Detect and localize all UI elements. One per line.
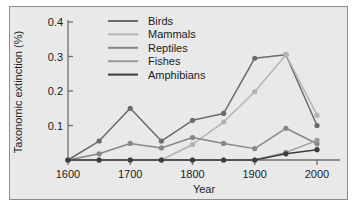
line-chart: 0.10.20.30.4 16001700180019002000 Year T… bbox=[0, 0, 358, 207]
data-point bbox=[97, 138, 102, 143]
data-point bbox=[128, 106, 133, 111]
x-axis-title: Year bbox=[193, 183, 216, 195]
y-axis-ticks bbox=[68, 22, 73, 126]
data-point bbox=[252, 157, 257, 162]
data-point bbox=[221, 157, 226, 162]
data-point bbox=[314, 123, 319, 128]
y-tick-label: 0.4 bbox=[48, 16, 63, 28]
x-tick-label: 1800 bbox=[180, 168, 204, 180]
data-point bbox=[221, 141, 226, 146]
data-point bbox=[314, 147, 319, 152]
legend-label-birds: Birds bbox=[148, 15, 174, 27]
data-point bbox=[190, 118, 195, 123]
legend-label-amphibians: Amphibians bbox=[148, 69, 206, 81]
data-point bbox=[190, 135, 195, 140]
y-axis-tick-labels: 0.10.20.30.4 bbox=[48, 16, 63, 132]
data-point bbox=[190, 142, 195, 147]
x-tick-label: 1700 bbox=[118, 168, 142, 180]
data-point bbox=[159, 157, 164, 162]
legend: BirdsMammalsReptilesFishesAmphibians bbox=[108, 15, 206, 81]
y-axis-title: Taxonomic extinction (%) bbox=[12, 31, 24, 153]
data-point bbox=[221, 111, 226, 116]
data-point bbox=[252, 56, 257, 61]
data-point bbox=[314, 138, 319, 143]
data-point bbox=[65, 157, 70, 162]
y-tick-label: 0.2 bbox=[48, 85, 63, 97]
legend-label-fishes: Fishes bbox=[148, 55, 181, 67]
legend-label-mammals: Mammals bbox=[148, 28, 196, 40]
data-point bbox=[97, 157, 102, 162]
y-tick-label: 0.1 bbox=[48, 120, 63, 132]
x-tick-label: 1900 bbox=[243, 168, 267, 180]
data-point bbox=[252, 89, 257, 94]
x-axis-tick-labels: 16001700180019002000 bbox=[56, 168, 329, 180]
x-tick-label: 1600 bbox=[56, 168, 80, 180]
figure-container: 0.10.20.30.4 16001700180019002000 Year T… bbox=[0, 0, 358, 207]
data-point bbox=[283, 151, 288, 156]
legend-label-reptiles: Reptiles bbox=[148, 42, 188, 54]
data-point bbox=[283, 52, 288, 57]
data-point bbox=[128, 141, 133, 146]
data-point bbox=[159, 138, 164, 143]
data-point bbox=[252, 146, 257, 151]
data-point bbox=[314, 113, 319, 118]
y-tick-label: 0.3 bbox=[48, 51, 63, 63]
data-point bbox=[128, 157, 133, 162]
data-point bbox=[97, 151, 102, 156]
data-point bbox=[190, 157, 195, 162]
data-point bbox=[159, 145, 164, 150]
data-point bbox=[283, 126, 288, 131]
data-point bbox=[221, 119, 226, 124]
x-tick-label: 2000 bbox=[305, 168, 329, 180]
